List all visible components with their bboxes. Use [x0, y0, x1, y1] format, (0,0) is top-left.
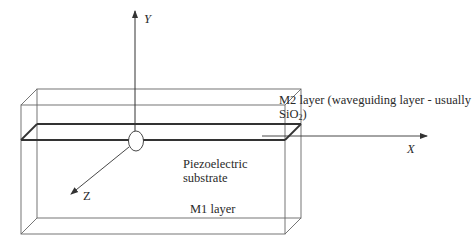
m2-layer-label-line1: M2 layer (waveguiding layer - usually — [279, 93, 471, 107]
y-axis-label: Y — [144, 12, 151, 26]
slab-right-edge — [285, 124, 301, 140]
m2-formula-suffix: ) — [302, 107, 306, 121]
m2-layer-label-line2: SiO2) — [279, 107, 471, 121]
m2-formula-prefix: SiO — [279, 107, 298, 121]
box-wireframe — [21, 89, 301, 234]
origin-marker — [129, 131, 144, 151]
box-edge-top-left — [21, 89, 37, 105]
waveguide-slab — [21, 124, 301, 140]
box-edge-bottom-right — [285, 218, 301, 234]
box-back-face — [37, 89, 301, 218]
substrate-label-line2: substrate — [183, 171, 248, 185]
m2-layer-label: M2 layer (waveguiding layer - usually Si… — [279, 93, 471, 121]
m1-layer-label: M1 layer — [190, 202, 235, 216]
layered-structure-diagram — [0, 0, 476, 248]
substrate-label-line1: Piezoelectric — [183, 157, 248, 171]
box-edge-bottom-left — [21, 218, 37, 234]
slab-left-edge — [21, 124, 37, 140]
substrate-label: Piezoelectric substrate — [183, 157, 248, 185]
x-axis-label: X — [407, 142, 415, 156]
z-axis — [71, 147, 129, 194]
z-axis-label: Z — [83, 189, 91, 203]
